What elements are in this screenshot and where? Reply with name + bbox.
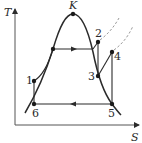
label-3: 3	[88, 70, 95, 83]
point-6	[32, 102, 36, 106]
label-2: 2	[95, 27, 102, 40]
label-1: 1	[26, 74, 33, 87]
label-k: K	[68, 0, 78, 12]
isobar-2	[100, 18, 119, 40]
arrow-condensation-icon	[70, 102, 76, 107]
label-4: 4	[114, 50, 121, 63]
label-6: 6	[32, 107, 39, 120]
state-points	[32, 12, 114, 106]
saturation-dome	[25, 14, 121, 115]
critical-point-k	[71, 12, 75, 16]
arrow-evaporation-icon	[71, 47, 77, 52]
isobars	[100, 18, 133, 50]
sat-liquid-point	[51, 47, 55, 51]
axes: T S	[4, 6, 139, 143]
cycle-paths	[34, 42, 112, 104]
path-3-4	[98, 52, 112, 76]
point-2	[96, 40, 100, 44]
point-5	[110, 102, 114, 106]
ts-diagram: T S K	[0, 0, 142, 143]
label-5: 5	[108, 107, 115, 120]
isobar-4	[114, 26, 133, 50]
t-axis-label: T	[4, 6, 13, 19]
point-3	[96, 74, 100, 78]
s-axis-label: S	[131, 131, 139, 143]
